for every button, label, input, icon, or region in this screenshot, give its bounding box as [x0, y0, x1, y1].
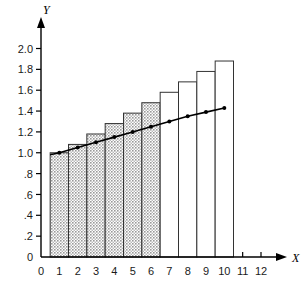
x-tick-label-6: 6 [148, 265, 154, 277]
chart-figure: 0.2.4.6.81.01.21.41.61.82.00123456789101… [0, 0, 305, 289]
trend-point-8 [186, 114, 190, 118]
bars-group [50, 61, 233, 257]
bar-1 [50, 153, 68, 257]
y-tick-label-.6: .6 [24, 189, 33, 201]
bar-9 [197, 71, 215, 257]
trend-point-7 [167, 119, 171, 123]
y-tick-label-1.8: 1.8 [18, 63, 33, 75]
bar-2 [69, 144, 87, 257]
bar-5 [124, 113, 142, 257]
x-axis-name: X [291, 251, 300, 265]
x-tick-label-4: 4 [111, 265, 117, 277]
x-tick-label-10: 10 [218, 265, 230, 277]
bar-10 [215, 61, 233, 257]
x-tick-label-12: 12 [255, 265, 267, 277]
y-tick-label-2.0: 2.0 [18, 43, 33, 55]
trend-point-5 [131, 130, 135, 134]
y-axis-name: Y [43, 3, 51, 17]
trend-point-6 [149, 125, 153, 129]
trend-point-4 [112, 135, 116, 139]
x-tick-label-1: 1 [56, 265, 62, 277]
y-tick-label-.8: .8 [24, 168, 33, 180]
bar-4 [105, 124, 123, 257]
chart-canvas: 0.2.4.6.81.01.21.41.61.82.00123456789101… [0, 0, 305, 289]
x-tick-label-5: 5 [130, 265, 136, 277]
x-axis-arrowhead [276, 253, 287, 261]
x-tick-label-3: 3 [93, 265, 99, 277]
x-tick-label-9: 9 [203, 265, 209, 277]
trend-point-2 [76, 146, 80, 150]
y-tick-label-1.6: 1.6 [18, 84, 33, 96]
y-axis-arrowhead [37, 17, 45, 28]
x-tick-label-8: 8 [185, 265, 191, 277]
bar-3 [87, 134, 105, 257]
y-tick-label-0: 0 [27, 251, 33, 263]
trend-point-10 [222, 106, 226, 110]
trend-point-1 [57, 151, 61, 155]
y-tick-label-1.2: 1.2 [18, 126, 33, 138]
y-tick-label-.2: .2 [24, 230, 33, 242]
y-tick-label-1.0: 1.0 [18, 147, 33, 159]
x-tick-label-11: 11 [237, 265, 248, 277]
trend-point-3 [94, 140, 98, 144]
x-tick-label-0: 0 [38, 265, 44, 277]
x-tick-label-2: 2 [75, 265, 81, 277]
bar-8 [179, 82, 197, 257]
bar-7 [160, 92, 178, 257]
y-tick-label-.4: .4 [24, 209, 33, 221]
x-tick-label-7: 7 [166, 265, 172, 277]
trend-point-9 [204, 110, 208, 114]
y-tick-label-1.4: 1.4 [18, 105, 33, 117]
